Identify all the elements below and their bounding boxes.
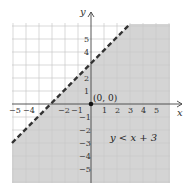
y-axis-label: y — [79, 6, 86, 17]
x-tick: −4 — [23, 106, 35, 115]
x-tick: 2 — [115, 106, 120, 115]
inequality-graph: y x −5 −4 −2 −1 1 2 3 4 5 1 2 4 5 −1 −2 … — [0, 0, 195, 193]
y-tick: −3 — [79, 139, 91, 148]
y-tick: 1 — [84, 87, 89, 96]
inequality-label: y < x + 3 — [109, 132, 157, 143]
y-tick: 2 — [84, 74, 89, 83]
y-tick: 5 — [84, 35, 89, 44]
origin-label: (0, 0) — [93, 93, 117, 103]
y-tick: −5 — [79, 165, 91, 174]
y-tick: −4 — [79, 152, 91, 161]
y-tick: 4 — [84, 48, 89, 57]
x-tick: 3 — [128, 106, 133, 115]
x-tick: 4 — [141, 106, 146, 115]
x-tick: −5 — [9, 106, 21, 115]
x-tick: 1 — [102, 106, 107, 115]
x-tick: 5 — [154, 106, 159, 115]
y-tick: −1 — [79, 113, 91, 122]
y-tick: −2 — [79, 126, 91, 135]
x-axis-label: x — [177, 107, 183, 118]
x-tick: −2 — [58, 106, 70, 115]
